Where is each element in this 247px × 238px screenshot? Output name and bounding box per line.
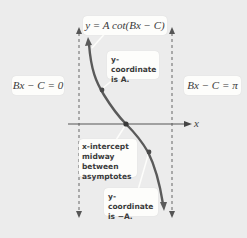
arrow-up-icon <box>169 27 175 34</box>
left-asymptote-label: Bx − C = 0 <box>12 76 64 95</box>
point-x-intercept <box>123 121 128 126</box>
arrow-right-icon <box>184 121 192 127</box>
point-y-A <box>100 88 105 93</box>
x-axis-label: x <box>194 117 199 129</box>
left-asymptote <box>76 27 82 218</box>
note-top-line1: y-coordinate <box>111 55 159 75</box>
curve-arrow-up-icon <box>85 37 92 46</box>
note-bottom-point: y-coordinate is −A. <box>104 188 158 216</box>
note-top-line2: is A. <box>111 75 159 85</box>
arrow-up-icon <box>76 27 82 34</box>
note-intercept-line2: midway between <box>82 152 137 172</box>
equation-title: y = A cot(Bx − C) <box>83 16 167 35</box>
arrow-down-icon <box>169 211 175 218</box>
arrow-down-icon <box>76 211 82 218</box>
right-asymptote <box>169 27 175 218</box>
note-intercept-line3: asymptotes <box>82 172 137 182</box>
right-asymptote-label: Bx − C = π <box>184 76 241 95</box>
curve-arrow-down-icon <box>160 202 167 211</box>
note-bottom-line1: y-coordinate <box>108 192 158 212</box>
note-bottom-line2: is −A. <box>108 212 158 222</box>
note-top-point: y-coordinate is A. <box>107 51 159 79</box>
point-y-neg-A <box>147 150 152 155</box>
note-intercept: x-intercept midway between asymptotes <box>79 139 137 177</box>
note-intercept-line1: x-intercept <box>82 142 137 152</box>
x-axis <box>68 121 192 127</box>
